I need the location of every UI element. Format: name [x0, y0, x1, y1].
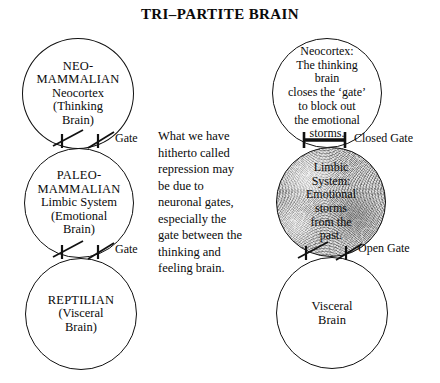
- paleo-mammalian-line2: MAMMALIAN: [37, 183, 120, 197]
- visceral-brain-line1: Visceral: [312, 299, 353, 313]
- center-caption-line-8: thinking and: [158, 244, 270, 261]
- gate-arm-left: [53, 130, 83, 146]
- open-gate-label: Open Gate: [358, 241, 410, 256]
- paleo-mammalian-line4: (Emotional: [37, 210, 120, 224]
- closed-gate-label: Closed Gate: [354, 131, 413, 146]
- center-caption-line-7: gate between the: [158, 227, 270, 244]
- circle-neo-mammalian-text: NEO- MAMMALIAN Neocortex (Thinking Brain…: [30, 60, 125, 128]
- circle-reptilian-text: REPTILIAN (Visceral Brain): [42, 294, 120, 335]
- gate-lower-left-label: Gate: [115, 242, 138, 257]
- center-caption-line-1: What we have: [158, 128, 270, 145]
- neo-mammalian-line4: (Thinking: [36, 100, 119, 114]
- reptilian-line2: (Visceral: [48, 307, 114, 321]
- limbic-detail-line6: past.: [306, 229, 356, 243]
- neocortex-detail-line2: The thinking: [288, 59, 366, 73]
- paleo-mammalian-line3: Limbic System: [37, 196, 120, 210]
- gate-upper-left-label: Gate: [115, 131, 138, 146]
- center-caption-line-6: especially the: [158, 211, 270, 228]
- limbic-detail-line5: from the: [306, 216, 356, 230]
- neo-mammalian-line2: MAMMALIAN: [36, 73, 119, 87]
- tri-partite-brain-figure: TRI–PARTITE BRAIN NEO- MAMMALIAN Neocort…: [0, 0, 440, 383]
- center-caption-line-3: repression may: [158, 161, 270, 178]
- limbic-detail-line3: Emotional: [306, 188, 356, 202]
- circle-visceral-brain-text: Visceral Brain: [306, 299, 359, 328]
- limbic-detail-line1: Limbic: [306, 161, 356, 175]
- circle-visceral-brain: Visceral Brain: [276, 257, 388, 369]
- circle-limbic-detail-text: Limbic System: Emotional storms from the…: [300, 161, 362, 243]
- neocortex-detail-line4: closes the ‘gate’: [288, 86, 366, 100]
- visceral-brain-line2: Brain: [312, 313, 353, 327]
- open-gate-arm-left: [298, 242, 328, 258]
- neo-mammalian-line3: Neocortex: [36, 87, 119, 101]
- neocortex-detail-line5: to block out: [288, 100, 366, 114]
- reptilian-line3: Brain): [48, 321, 114, 335]
- center-caption-line-9: feeling brain.: [158, 260, 270, 277]
- gate-arm-right: [88, 243, 114, 259]
- page-title: TRI–PARTITE BRAIN: [0, 6, 440, 23]
- neo-mammalian-line1: NEO-: [36, 60, 119, 74]
- limbic-detail-line2: System:: [306, 175, 356, 189]
- circle-reptilian: REPTILIAN (Visceral Brain): [25, 258, 137, 370]
- center-caption: What we have hitherto called repression …: [158, 128, 270, 277]
- reptilian-line1: REPTILIAN: [48, 294, 114, 308]
- circle-paleo-mammalian-text: PALEO- MAMMALIAN Limbic System (Emotiona…: [31, 169, 126, 237]
- gate-arm-right: [88, 132, 114, 148]
- center-caption-line-2: hitherto called: [158, 145, 270, 162]
- paleo-mammalian-line1: PALEO-: [37, 169, 120, 183]
- center-caption-line-5: neuronal gates,: [158, 194, 270, 211]
- gate-arm-left: [53, 241, 83, 257]
- neocortex-detail-line3: brain: [288, 72, 366, 86]
- center-caption-line-4: be due to: [158, 178, 270, 195]
- limbic-detail-line4: storms: [306, 202, 356, 216]
- neocortex-detail-line1: Neocortex:: [288, 45, 366, 59]
